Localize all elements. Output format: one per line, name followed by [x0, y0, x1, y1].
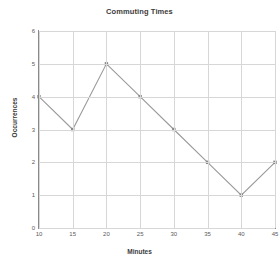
y-axis-tick-label: 1: [7, 192, 35, 198]
y-axis-tick-labels: 0123456: [4, 31, 35, 228]
gridline-vertical: [106, 31, 107, 228]
x-axis-tick-label: 25: [128, 231, 152, 237]
y-axis-tick-label: 4: [7, 94, 35, 100]
gridline-vertical: [39, 31, 40, 228]
gridline-horizontal: [39, 228, 275, 229]
y-axis-tick-label: 6: [7, 28, 35, 34]
gridline-horizontal: [39, 64, 275, 65]
y-axis-tick-label: 5: [7, 61, 35, 67]
x-axis-title: Minutes: [0, 248, 279, 255]
y-axis-tick-label: 3: [7, 127, 35, 133]
gridline-horizontal: [39, 97, 275, 98]
gridline-vertical: [208, 31, 209, 228]
x-axis-tick-label: 20: [94, 231, 118, 237]
chart-title: Commuting Times: [0, 7, 279, 16]
x-axis-tick-labels: 1015202530354045: [39, 231, 275, 243]
x-axis-tick-label: 40: [229, 231, 253, 237]
gridline-vertical: [73, 31, 74, 228]
gridline-horizontal: [39, 162, 275, 163]
x-axis-tick-label: 35: [196, 231, 220, 237]
gridline-horizontal: [39, 195, 275, 196]
gridline-horizontal: [39, 31, 275, 32]
x-axis-tick-label: 10: [27, 231, 51, 237]
y-axis-tick-label: 2: [7, 159, 35, 165]
gridline-horizontal: [39, 130, 275, 131]
gridline-vertical: [275, 31, 276, 228]
x-axis-tick-label: 15: [61, 231, 85, 237]
x-axis-tick-label: 30: [162, 231, 186, 237]
chart-page: Commuting Times Occurrences 0123456 1015…: [0, 0, 279, 271]
plot-area: [39, 31, 275, 228]
x-axis-tick-label: 45: [263, 231, 279, 237]
gridline-vertical: [174, 31, 175, 228]
gridline-vertical: [241, 31, 242, 228]
gridline-vertical: [140, 31, 141, 228]
